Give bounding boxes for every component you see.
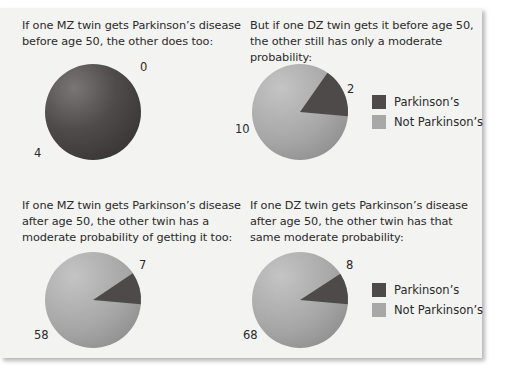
value-label-parkinsons: 8: [346, 258, 353, 272]
legend-swatch-not-parkinsons: [372, 115, 386, 129]
chart-panel: If one MZ twin gets Parkinson’s disease …: [0, 8, 482, 358]
pie-panel-mz-before-50: If one MZ twin gets Parkinson’s disease …: [22, 18, 262, 193]
pie-panel-mz-after-50: If one MZ twin gets Parkinson’s disease …: [22, 198, 262, 370]
legend-item-parkinsons: Parkinson’s: [372, 92, 483, 112]
value-label-not-parkinsons: 0: [140, 60, 147, 74]
legend: Parkinson’s Not Parkinson’s: [372, 92, 483, 132]
pie-chart: [43, 62, 143, 162]
caption: But if one DZ twin gets it before age 50…: [250, 18, 490, 66]
pie-panel-dz-before-50: But if one DZ twin gets it before age 50…: [250, 18, 490, 193]
pie-chart: [250, 250, 350, 350]
caption: If one DZ twin gets Parkinson’s disease …: [250, 198, 490, 246]
caption: If one MZ twin gets Parkinson’s disease …: [22, 198, 262, 246]
value-label-parkinsons: 4: [34, 146, 41, 160]
value-label-not-parkinsons: 68: [243, 328, 258, 342]
value-label-parkinsons: 7: [139, 258, 146, 272]
value-label-not-parkinsons: 10: [235, 122, 250, 136]
legend-swatch-parkinsons: [372, 95, 386, 109]
legend: Parkinson’s Not Parkinson’s: [372, 280, 483, 320]
pie-chart: [250, 62, 350, 162]
value-label-parkinsons: 2: [347, 82, 354, 96]
pie-panel-dz-after-50: If one DZ twin gets Parkinson’s disease …: [250, 198, 490, 370]
legend-swatch-parkinsons: [372, 283, 386, 297]
value-label-not-parkinsons: 58: [34, 328, 49, 342]
legend-item-parkinsons: Parkinson’s: [372, 280, 483, 300]
caption: If one MZ twin gets Parkinson’s disease …: [22, 18, 262, 50]
legend-swatch-not-parkinsons: [372, 303, 386, 317]
legend-item-not-parkinsons: Not Parkinson’s: [372, 112, 483, 132]
legend-item-not-parkinsons: Not Parkinson’s: [372, 300, 483, 320]
pie-chart: [43, 250, 143, 350]
pie-slice-parkinsons: [45, 64, 141, 160]
